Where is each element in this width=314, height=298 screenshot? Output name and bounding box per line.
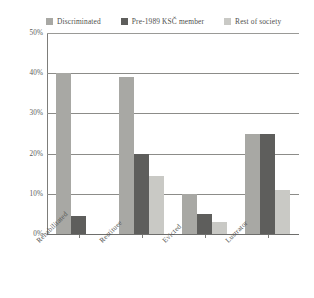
- y-axis-tick-label: 20%: [30, 150, 43, 158]
- bar: [245, 134, 260, 235]
- chart-legend: Discriminated Pre-1989 KSČ member Rest o…: [46, 14, 308, 28]
- bar: [134, 154, 149, 234]
- x-axis-tick-mark: [79, 235, 80, 238]
- legend-label-rest-of-society: Rest of society: [235, 17, 281, 26]
- y-axis-tick-label: 30%: [30, 109, 43, 117]
- bar: [197, 214, 212, 234]
- x-axis-tick-mark: [268, 235, 269, 238]
- legend-label-ksc-member: Pre-1989 KSČ member: [132, 17, 204, 26]
- bar: [212, 222, 227, 234]
- bar: [182, 194, 197, 234]
- bar: [119, 77, 134, 234]
- bar-chart-figure: Discriminated Pre-1989 KSČ member Rest o…: [0, 0, 314, 298]
- legend-swatch-rest-of-society: [224, 18, 231, 25]
- legend-swatch-ksc-member: [121, 18, 128, 25]
- y-axis-tick-label: 50%: [30, 29, 43, 37]
- bar: [260, 134, 275, 235]
- bar: [275, 190, 290, 234]
- x-axis-tick-mark: [205, 235, 206, 238]
- legend-label-discriminated: Discriminated: [57, 17, 101, 26]
- legend-entry-discriminated: Discriminated: [46, 17, 101, 26]
- y-axis-tick-label: 40%: [30, 69, 43, 77]
- x-axis-tick-mark: [142, 235, 143, 238]
- legend-entry-rest-of-society: Rest of society: [224, 17, 281, 26]
- bar: [149, 176, 164, 234]
- gridline: [47, 73, 299, 74]
- bar: [71, 216, 86, 234]
- gridline: [47, 113, 299, 114]
- legend-entry-ksc-member: Pre-1989 KSČ member: [121, 17, 204, 26]
- gridline: [47, 33, 299, 34]
- plot-area: 0%10%20%30%40%50%: [47, 33, 299, 234]
- legend-swatch-discriminated: [46, 18, 53, 25]
- y-axis-tick-label: 10%: [30, 190, 43, 198]
